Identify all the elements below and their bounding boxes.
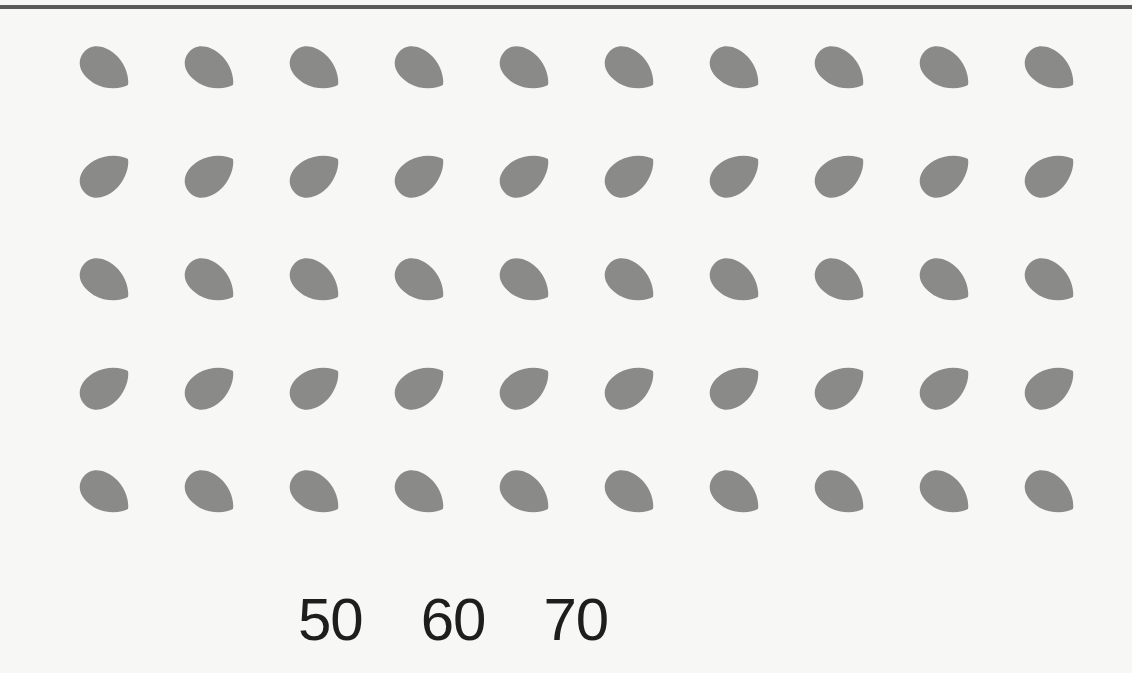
almond-cell (175, 462, 280, 568)
almond-icon (809, 468, 871, 518)
almond-cell (490, 144, 595, 250)
almond-cell (280, 356, 385, 462)
almond-icon (74, 44, 136, 94)
almond-cell (385, 250, 490, 356)
almond-icon (914, 256, 976, 306)
almond-cell (175, 144, 280, 250)
almond-cell (805, 356, 910, 462)
almond-icon (179, 150, 241, 200)
almond-cell (910, 356, 1015, 462)
almond-icon (284, 256, 346, 306)
almond-cell (1015, 144, 1120, 250)
almond-cell (490, 38, 595, 144)
almond-cell (70, 144, 175, 250)
almond-cell (910, 250, 1015, 356)
almond-icon (74, 256, 136, 306)
almond-cell (805, 250, 910, 356)
almond-icon (1019, 362, 1081, 412)
almond-grid (70, 38, 1120, 568)
almond-cell (910, 38, 1015, 144)
almond-icon (599, 150, 661, 200)
almond-cell (70, 38, 175, 144)
almond-icon (914, 150, 976, 200)
almond-icon (599, 362, 661, 412)
almond-icon (494, 468, 556, 518)
almond-cell (805, 144, 910, 250)
almond-cell (385, 144, 490, 250)
almond-icon (809, 150, 871, 200)
almond-icon (599, 468, 661, 518)
almond-icon (284, 44, 346, 94)
almond-cell (490, 462, 595, 568)
almond-icon (389, 150, 451, 200)
almond-icon (74, 362, 136, 412)
almond-cell (700, 250, 805, 356)
answer-choices: 50 60 70 (298, 590, 608, 650)
almond-cell (1015, 356, 1120, 462)
almond-cell (490, 250, 595, 356)
almond-cell (175, 356, 280, 462)
almond-cell (70, 356, 175, 462)
almond-cell (1015, 250, 1120, 356)
almond-icon (704, 44, 766, 94)
almond-icon (389, 362, 451, 412)
almond-icon (704, 256, 766, 306)
almond-cell (280, 462, 385, 568)
almond-icon (1019, 256, 1081, 306)
almond-cell (1015, 38, 1120, 144)
almond-cell (280, 250, 385, 356)
almond-icon (74, 468, 136, 518)
almond-icon (284, 362, 346, 412)
almond-icon (599, 256, 661, 306)
almond-icon (179, 362, 241, 412)
almond-icon (494, 150, 556, 200)
almond-icon (1019, 468, 1081, 518)
almond-cell (595, 462, 700, 568)
almond-cell (700, 144, 805, 250)
choice-70[interactable]: 70 (544, 590, 609, 650)
almond-icon (809, 44, 871, 94)
almond-icon (494, 362, 556, 412)
almond-icon (494, 256, 556, 306)
choice-60[interactable]: 60 (421, 590, 486, 650)
almond-icon (914, 44, 976, 94)
almond-icon (179, 44, 241, 94)
almond-icon (389, 256, 451, 306)
almond-cell (385, 356, 490, 462)
almond-cell (175, 250, 280, 356)
almond-cell (910, 462, 1015, 568)
almond-icon (1019, 150, 1081, 200)
almond-cell (70, 250, 175, 356)
top-divider (0, 5, 1132, 9)
almond-cell (175, 38, 280, 144)
almond-icon (389, 468, 451, 518)
almond-cell (910, 144, 1015, 250)
almond-cell (70, 462, 175, 568)
almond-icon (704, 468, 766, 518)
almond-icon (74, 150, 136, 200)
almond-cell (595, 144, 700, 250)
almond-icon (704, 150, 766, 200)
almond-icon (179, 468, 241, 518)
almond-cell (700, 38, 805, 144)
almond-cell (805, 462, 910, 568)
almond-icon (494, 44, 556, 94)
almond-cell (595, 356, 700, 462)
almond-icon (284, 468, 346, 518)
choice-50[interactable]: 50 (298, 590, 363, 650)
almond-icon (284, 150, 346, 200)
almond-cell (700, 356, 805, 462)
almond-cell (805, 38, 910, 144)
almond-cell (385, 462, 490, 568)
almond-icon (179, 256, 241, 306)
almond-cell (280, 38, 385, 144)
almond-cell (595, 250, 700, 356)
almond-icon (809, 256, 871, 306)
almond-cell (595, 38, 700, 144)
almond-cell (385, 38, 490, 144)
almond-icon (914, 362, 976, 412)
almond-icon (809, 362, 871, 412)
almond-cell (490, 356, 595, 462)
almond-icon (599, 44, 661, 94)
almond-icon (704, 362, 766, 412)
